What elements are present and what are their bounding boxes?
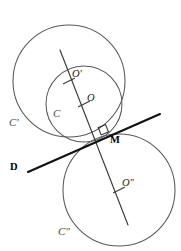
- tangent-line-d: [28, 114, 160, 172]
- point-label-o: O: [87, 93, 95, 104]
- geometry-canvas: [0, 0, 181, 251]
- point-label-o-second: O": [122, 178, 134, 189]
- curve-label-c-prime: C': [9, 117, 19, 128]
- right-angle-marker-at-m: [98, 125, 108, 135]
- point-label-o-prime: O': [72, 69, 82, 80]
- geometry-figure: O' O M O" C' C C" D: [0, 0, 181, 251]
- curve-label-c: C: [53, 108, 60, 119]
- line-label-d: D: [10, 162, 18, 173]
- point-label-m: M: [110, 135, 120, 146]
- curve-label-c-second: C": [58, 226, 70, 237]
